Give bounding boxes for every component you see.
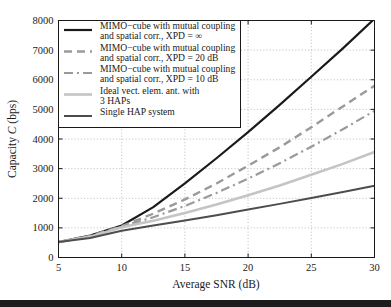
y-tick-label: 7000 [33,45,54,56]
x-tick-label: 5 [56,262,61,273]
y-tick-label: 0 [48,252,53,263]
y-tick-label: 1000 [33,222,54,233]
legend-label-4-line1: Single HAP system [100,106,175,117]
y-tick-label: 3000 [33,163,54,174]
footer-bar [0,300,391,307]
legend-label-1-line2: and spatial corr., XPD = 20 dB [100,52,218,63]
x-tick-label: 10 [116,262,127,273]
legend-label-2-line2: and spatial corr., XPD = 10 dB [100,73,218,84]
y-tick-label: 8000 [33,15,54,26]
x-tick-label: 30 [369,262,380,273]
x-axis-title: Average SNR (dB) [172,278,259,291]
y-tick-labels: 010002000300040005000600070008000 [33,15,54,263]
x-tick-label: 20 [243,262,254,273]
x-tick-label: 25 [306,262,317,273]
y-tick-label: 2000 [33,193,54,204]
legend: MIMO−cube with mutual couplingand spatia… [59,20,241,128]
y-tick-label: 4000 [33,134,54,145]
y-tick-label: 6000 [33,74,54,85]
y-axis-title-suffix: (bps) [6,100,19,127]
legend-label-0-line2: and spatial corr., XPD = ∞ [100,30,202,41]
capacity-vs-snr-chart: 010002000300040005000600070008000 510152… [0,0,391,307]
y-axis-title: Capacity C (bps) [6,100,19,178]
y-tick-label: 5000 [33,104,54,115]
figure-container: 010002000300040005000600070008000 510152… [0,0,391,307]
legend-label-3-line2: 3 HAPs [100,95,130,106]
y-axis-title-prefix: Capacity [6,134,19,178]
x-tick-label: 15 [180,262,191,273]
